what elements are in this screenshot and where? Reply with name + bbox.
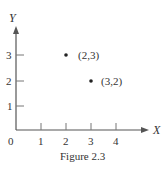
y-tick-label: 1: [7, 100, 13, 112]
point-label: (2,3): [78, 49, 99, 62]
figure-caption: Figure 2.3: [60, 150, 106, 162]
y-tick-label: 2: [6, 75, 12, 87]
figure: Y X 0 1 2 3 4 1 2 3 (2,3) (3,2) Figure 2…: [0, 0, 167, 175]
x-tick-label: 3: [88, 135, 94, 147]
x-tick-label: 2: [63, 135, 69, 147]
x-axis-arrow-icon: [141, 127, 149, 133]
y-axis-label: Y: [9, 11, 17, 25]
data-point: [89, 79, 93, 83]
point-label: (3,2): [101, 75, 122, 88]
x-axis-label: X: [152, 123, 161, 137]
x-tick-label: 4: [113, 135, 119, 147]
y-tick-label: 3: [6, 49, 12, 61]
data-point: [64, 53, 68, 57]
y-axis-arrow-icon: [13, 26, 19, 34]
origin-label: 0: [8, 135, 14, 147]
x-tick-label: 1: [38, 135, 44, 147]
